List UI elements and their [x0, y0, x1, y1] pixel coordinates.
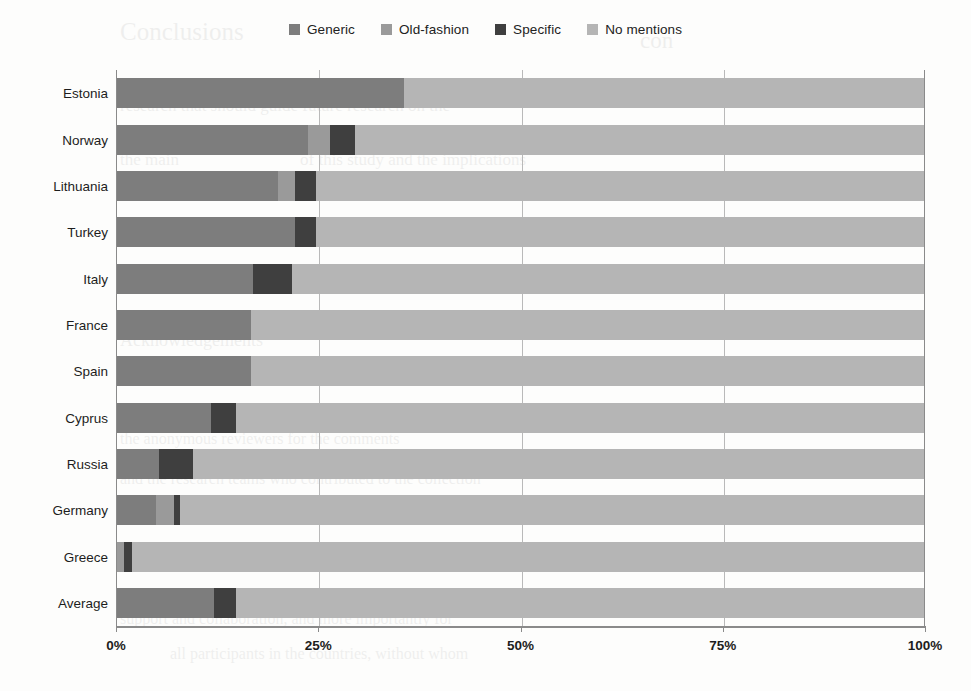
- bar-row: [117, 125, 924, 155]
- stacked-bar[interactable]: [117, 495, 924, 525]
- x-tick-mark-75: [723, 626, 724, 632]
- bar-segment-generic[interactable]: [117, 356, 251, 386]
- bar-segment-no-mentions[interactable]: [316, 217, 924, 247]
- bar-row: [117, 403, 924, 433]
- bar-segment-generic[interactable]: [117, 217, 295, 247]
- chart-legend: GenericOld-fashionSpecificNo mentions: [0, 22, 971, 37]
- bar-row: [117, 171, 924, 201]
- stacked-bar[interactable]: [117, 217, 924, 247]
- bar-segment-old-fashion[interactable]: [156, 495, 175, 525]
- bar-segment-specific[interactable]: [330, 125, 355, 155]
- legend-label: No mentions: [605, 22, 682, 37]
- bar-row: [117, 588, 924, 618]
- stacked-bar-chart: GenericOld-fashionSpecificNo mentions Es…: [0, 0, 971, 691]
- x-tick-label-0: 0%: [106, 638, 126, 653]
- x-tick-mark-25: [318, 626, 319, 632]
- legend-swatch-icon: [587, 24, 598, 35]
- y-axis-label-italy: Italy: [83, 271, 108, 286]
- stacked-bar[interactable]: [117, 588, 924, 618]
- bar-row: [117, 264, 924, 294]
- bar-segment-specific[interactable]: [295, 217, 315, 247]
- bar-segment-generic[interactable]: [117, 495, 156, 525]
- bar-segment-no-mentions[interactable]: [251, 310, 924, 340]
- bar-row: [117, 449, 924, 479]
- bar-row: [117, 78, 924, 108]
- bar-row: [117, 310, 924, 340]
- x-tick-mark-100: [925, 626, 926, 632]
- stacked-bar[interactable]: [117, 356, 924, 386]
- x-tick-label-100: 100%: [908, 638, 943, 653]
- bar-segment-no-mentions[interactable]: [132, 542, 924, 572]
- stacked-bar[interactable]: [117, 78, 924, 108]
- x-tick-mark-0: [116, 626, 117, 632]
- bar-segment-generic[interactable]: [117, 171, 278, 201]
- y-axis-category-labels: EstoniaNorwayLithuaniaTurkeyItalyFranceS…: [0, 70, 108, 626]
- legend-item-generic[interactable]: Generic: [289, 22, 355, 37]
- legend-swatch-icon: [495, 24, 506, 35]
- bar-segment-no-mentions[interactable]: [180, 495, 924, 525]
- bar-segment-generic[interactable]: [117, 78, 404, 108]
- stacked-bar[interactable]: [117, 125, 924, 155]
- bar-segment-old-fashion[interactable]: [117, 542, 124, 572]
- stacked-bar[interactable]: [117, 449, 924, 479]
- legend-item-old-fashion[interactable]: Old-fashion: [381, 22, 469, 37]
- bar-segment-specific[interactable]: [159, 449, 193, 479]
- legend-item-specific[interactable]: Specific: [495, 22, 561, 37]
- bar-segment-no-mentions[interactable]: [193, 449, 924, 479]
- y-axis-label-spain: Spain: [73, 364, 108, 379]
- bar-row: [117, 217, 924, 247]
- bar-row: [117, 542, 924, 572]
- bar-segment-specific[interactable]: [214, 588, 236, 618]
- bar-segment-generic[interactable]: [117, 125, 308, 155]
- stacked-bar[interactable]: [117, 542, 924, 572]
- legend-label: Generic: [307, 22, 355, 37]
- stacked-bar[interactable]: [117, 171, 924, 201]
- y-axis-label-average: Average: [58, 595, 108, 610]
- bar-segment-no-mentions[interactable]: [355, 125, 924, 155]
- stacked-bar[interactable]: [117, 264, 924, 294]
- x-tick-label-25: 25%: [305, 638, 332, 653]
- bar-segment-no-mentions[interactable]: [292, 264, 924, 294]
- x-tick-label-75: 75%: [709, 638, 736, 653]
- bar-segment-specific[interactable]: [253, 264, 292, 294]
- stacked-bar[interactable]: [117, 403, 924, 433]
- bar-segment-no-mentions[interactable]: [236, 588, 924, 618]
- bar-row: [117, 356, 924, 386]
- bar-row: [117, 495, 924, 525]
- bar-segment-no-mentions[interactable]: [236, 403, 924, 433]
- bar-segment-specific[interactable]: [295, 171, 315, 201]
- y-axis-label-lithuania: Lithuania: [53, 178, 108, 193]
- y-axis-label-greece: Greece: [64, 549, 108, 564]
- y-axis-label-turkey: Turkey: [67, 225, 108, 240]
- bar-segment-generic[interactable]: [117, 310, 251, 340]
- bar-segment-old-fashion[interactable]: [278, 171, 295, 201]
- y-axis-label-norway: Norway: [62, 132, 108, 147]
- legend-label: Specific: [513, 22, 561, 37]
- bar-segment-generic[interactable]: [117, 403, 211, 433]
- y-axis-label-germany: Germany: [52, 503, 108, 518]
- legend-label: Old-fashion: [399, 22, 469, 37]
- bar-segment-no-mentions[interactable]: [404, 78, 924, 108]
- plot-area: [116, 70, 925, 626]
- bar-segment-generic[interactable]: [117, 588, 214, 618]
- legend-swatch-icon: [381, 24, 392, 35]
- bar-segment-no-mentions[interactable]: [316, 171, 924, 201]
- bar-segment-old-fashion[interactable]: [308, 125, 330, 155]
- y-axis-label-france: France: [66, 317, 108, 332]
- y-axis-label-russia: Russia: [67, 456, 108, 471]
- bar-segment-specific[interactable]: [211, 403, 236, 433]
- stacked-bar[interactable]: [117, 310, 924, 340]
- bar-segment-generic[interactable]: [117, 449, 159, 479]
- x-tick-label-50: 50%: [507, 638, 534, 653]
- bar-segment-generic[interactable]: [117, 264, 253, 294]
- x-tick-mark-50: [521, 626, 522, 632]
- legend-item-no-mentions[interactable]: No mentions: [587, 22, 682, 37]
- bar-segment-specific[interactable]: [124, 542, 132, 572]
- legend-swatch-icon: [289, 24, 300, 35]
- y-axis-label-estonia: Estonia: [63, 86, 108, 101]
- bar-segment-no-mentions[interactable]: [251, 356, 924, 386]
- y-axis-label-cyprus: Cyprus: [65, 410, 108, 425]
